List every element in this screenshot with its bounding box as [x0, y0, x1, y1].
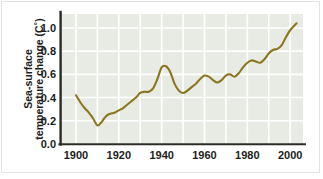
x-tick-label: 1920 — [107, 149, 131, 161]
x-tick-label: 1980 — [235, 149, 259, 161]
sea-surface-temperature-figure: 0.00.20.40.60.81.0 190019201940196019802… — [0, 0, 323, 179]
line-chart: 0.00.20.40.60.81.0 190019201940196019802… — [0, 0, 323, 179]
x-tick-label: 2000 — [278, 149, 302, 161]
x-tick-label: 1900 — [64, 149, 88, 161]
chart-page: 0.00.20.40.60.81.0 190019201940196019802… — [0, 0, 323, 179]
x-axis-tick-labels: 190019201940196019802000 — [64, 149, 303, 161]
x-tick-label: 1960 — [192, 149, 216, 161]
y-axis-title: Sea-surface temperature change (C˚) — [22, 18, 45, 139]
x-tick-label: 1940 — [149, 149, 173, 161]
y-axis-title-line2: temperature change (C˚) — [33, 18, 45, 139]
